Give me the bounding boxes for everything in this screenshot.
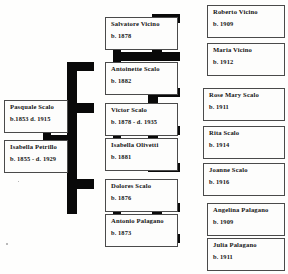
person-box-victor-scalo[interactable]: Victor Scalo b. 1878 - d. 1935 (105, 103, 178, 136)
person-dates: b. 1876 (111, 195, 173, 202)
person-dates: b. 1878 - d. 1935 (111, 119, 173, 126)
person-dates: b. 1909 (213, 219, 280, 226)
person-box-isabella-olivetti[interactable]: Isabella Olivetti b. 1881 (105, 138, 178, 171)
person-dates: b. 1882 (111, 78, 173, 85)
person-name: Julia Palagano (213, 242, 280, 249)
person-name: Salvatore Vicino (111, 21, 173, 28)
branch-to-maria (152, 52, 180, 61)
person-name: Angelina Palagano (213, 207, 280, 214)
person-name: Isabella Olivetti (111, 142, 173, 149)
person-box-pasquale-scalo[interactable]: Pasquale Scalo b.1853 d. 1915 (4, 100, 68, 133)
person-dates: b. 1878 (111, 33, 173, 40)
person-name: Joanne Scalo (209, 167, 280, 174)
person-dates: b. 1914 (209, 142, 280, 149)
scan-speck (6, 243, 8, 245)
sibling-trunk-gen2 (67, 62, 77, 214)
person-dates: b. 1855 - d. 1929 (10, 156, 63, 163)
person-box-dolores-scalo[interactable]: Dolores Scalo b. 1876 (105, 179, 178, 212)
person-box-rita-scalo[interactable]: Rita Scalo b. 1914 (203, 126, 285, 159)
person-dates: b. 1916 (209, 179, 280, 186)
person-name: Dolores Scalo (111, 183, 173, 190)
person-name: Roberto Vicino (213, 9, 280, 16)
person-dates: b.1853 d. 1915 (10, 116, 63, 123)
person-box-roberto-vicino[interactable]: Roberto Vicino b. 1909 (207, 5, 285, 38)
person-name: Rose Mary Scalo (209, 92, 280, 99)
person-box-joanne-scalo[interactable]: Joanne Scalo b. 1916 (203, 163, 285, 196)
person-dates: b. 1873 (111, 230, 173, 237)
person-box-maria-vicino[interactable]: Maria Vicino b. 1912 (207, 43, 285, 76)
scan-speck (18, 181, 19, 182)
person-dates: b. 1911 (213, 254, 280, 261)
person-dates: b. 1912 (213, 59, 280, 66)
person-name: Isabella Petrillo (10, 144, 63, 151)
family-tree-chart: Pasquale Scalo b.1853 d. 1915 Isabella P… (0, 0, 288, 274)
person-name: Victor Scalo (111, 107, 173, 114)
person-name: Pasquale Scalo (10, 104, 63, 111)
branch-to-dolores (67, 179, 94, 189)
person-dates: b. 1881 (111, 154, 173, 161)
person-box-antoinette-scalo[interactable]: Antoinette Scalo b. 1882 (105, 62, 178, 95)
person-name: Rita Scalo (209, 130, 280, 137)
person-box-salvatore-vicino[interactable]: Salvatore Vicino b. 1878 (105, 17, 178, 50)
person-name: Antonio Palagano (111, 218, 173, 225)
branch-to-victor (67, 103, 94, 113)
person-name: Antoinette Scalo (111, 66, 173, 73)
person-box-isabella-petrillo[interactable]: Isabella Petrillo b. 1855 - d. 1929 (4, 140, 68, 173)
person-box-julia-palagano[interactable]: Julia Palagano b. 1911 (207, 238, 285, 271)
branch-to-antoinette (67, 62, 94, 71)
person-name: Maria Vicino (213, 47, 280, 54)
person-box-angelina-palagano[interactable]: Angelina Palagano b. 1909 (207, 203, 285, 236)
person-box-rose-mary-scalo[interactable]: Rose Mary Scalo b. 1911 (203, 88, 285, 121)
person-dates: b. 1909 (213, 21, 280, 28)
person-box-antonio-palagano[interactable]: Antonio Palagano b. 1873 (105, 214, 178, 247)
person-dates: b. 1911 (209, 104, 280, 111)
